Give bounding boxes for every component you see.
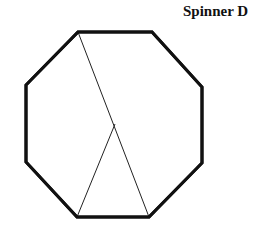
spinner-d-diagram	[0, 0, 259, 232]
